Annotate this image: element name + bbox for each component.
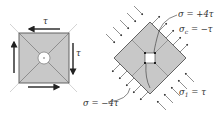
center-square [145,53,155,63]
sigma-minus-label: σ = −4τ [83,99,119,108]
sigma-1-label: σ1 = τ [179,88,206,98]
sigma-c-label: σc = −τ [179,25,213,35]
shear-element [10,24,77,92]
shear-label-right: τ [76,49,81,58]
shear-label-top: τ [43,17,48,26]
sigma-plus-label: σ = +4τ [178,10,214,19]
